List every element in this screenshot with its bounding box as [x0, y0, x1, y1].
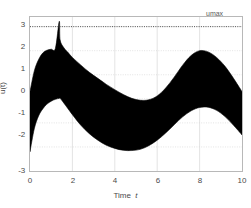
y-tick-label-neg1: -1	[5, 108, 25, 117]
plot-svg	[30, 17, 242, 171]
y-tick-label-0: 0	[5, 86, 25, 95]
x-tick-label-2: 2	[63, 176, 83, 185]
y-tick-label-neg2: -2	[5, 130, 25, 139]
x-axis-label-text: Time	[113, 191, 130, 200]
figure-canvas: u(t) 3 2 1 0 -1 -2 -3 0 2 4 6 8 10 Time …	[0, 0, 251, 208]
y-tick-label-1: 1	[5, 64, 25, 73]
x-axis-label: Time t	[0, 191, 251, 200]
y-tick-label-2: 2	[5, 42, 25, 51]
x-axis-label-variable: t	[135, 191, 137, 200]
y-tick-label-3: 3	[5, 20, 25, 29]
y-tick-label-neg3: -3	[5, 166, 25, 175]
x-tick-label-8: 8	[190, 176, 210, 185]
x-tick-label-4: 4	[105, 176, 125, 185]
uncertainty-band	[30, 21, 242, 152]
x-tick-label-0: 0	[20, 176, 40, 185]
x-tick-label-6: 6	[148, 176, 168, 185]
x-tick-label-10: 10	[232, 176, 251, 185]
plot-area	[29, 16, 243, 172]
